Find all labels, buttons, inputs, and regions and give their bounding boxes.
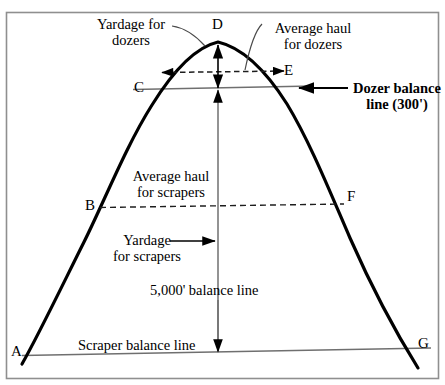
yardage-dozers-line2: dozers (88, 32, 174, 48)
figure-border (7, 13, 439, 379)
average-haul-scrapers-label: Average haul for scrapers (120, 168, 222, 200)
yardage-scrapers-line2: for scrapers (106, 248, 188, 264)
point-label-c: C (134, 79, 144, 96)
average-haul-scrapers-line1: Average haul (120, 168, 222, 184)
dozer-balance-line2: line (300') (351, 96, 443, 112)
average-haul-dozers-line2: for dozers (264, 36, 362, 52)
point-label-d: D (212, 16, 223, 33)
mass-haul-diagram: A B C D E F G Yardage for dozers Average… (0, 0, 445, 385)
average-haul-dozers-line1: Average haul (264, 20, 362, 36)
yardage-dozers-label: Yardage for dozers (88, 16, 174, 48)
point-label-g: G (418, 335, 429, 352)
yardage-scrapers-label: Yardage for scrapers (106, 232, 188, 264)
dozer-balance-line1: Dozer balance (351, 80, 443, 96)
average-haul-scrapers-line2: for scrapers (120, 184, 222, 200)
yardage-dozers-line1: Yardage for (88, 16, 174, 32)
yardage-scrapers-line1: Yardage (106, 232, 188, 248)
point-label-f: F (347, 188, 355, 205)
scraper-balance-line-label: Scraper balance line (78, 337, 196, 353)
point-label-e: E (284, 62, 293, 79)
point-label-b: B (85, 197, 95, 214)
average-haul-dozers-label: Average haul for dozers (264, 20, 362, 52)
dozer-balance-line-label: Dozer balance line (300') (351, 80, 443, 112)
point-label-a: A (11, 343, 22, 360)
balance-line-5000-label: 5,000' balance line (150, 282, 259, 298)
diagram-canvas (0, 0, 445, 385)
